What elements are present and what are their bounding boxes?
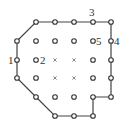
grid-boundary-diagram: 1 2 3 4 5	[0, 0, 128, 130]
circle-node-icon	[91, 114, 96, 119]
label-5: 5	[96, 35, 102, 47]
circle-node-icon	[53, 114, 58, 119]
circle-node-icon	[34, 39, 39, 44]
circle-node-icon	[15, 76, 20, 81]
circle-node-icon	[109, 95, 114, 100]
circle-node-icon	[109, 39, 114, 44]
circle-node-icon	[53, 95, 58, 100]
circle-node-icon	[109, 58, 114, 63]
label-3: 3	[89, 6, 95, 18]
circle-node-icon	[91, 76, 96, 81]
circle-node-icon	[72, 95, 77, 100]
circle-node-icon	[72, 114, 77, 119]
cross-node-icon	[72, 58, 75, 61]
circle-node-icon	[72, 39, 77, 44]
cross-node-icon	[53, 76, 56, 79]
circle-node-icon	[109, 76, 114, 81]
circle-node-icon	[91, 95, 96, 100]
label-2: 2	[40, 54, 46, 66]
circle-node-icon	[91, 20, 96, 25]
circle-node-icon	[34, 76, 39, 81]
circle-node-icon	[53, 39, 58, 44]
circle-node-icon	[34, 95, 39, 100]
label-4: 4	[114, 35, 120, 47]
circle-node-icon	[53, 20, 58, 25]
cross-node-icon	[53, 58, 56, 61]
circle-node-icon	[109, 20, 114, 25]
circle-node-icon	[34, 20, 39, 25]
circle-node-icon	[72, 20, 77, 25]
label-1: 1	[8, 54, 14, 66]
circle-node-icon	[15, 39, 20, 44]
circle-node-icon	[91, 58, 96, 63]
node-labels: 1 2 3 4 5	[8, 6, 120, 66]
circle-node-icon	[15, 58, 20, 63]
circle-node-icon	[34, 58, 39, 63]
circle-node-icon	[91, 39, 96, 44]
cross-node-icon	[72, 76, 75, 79]
